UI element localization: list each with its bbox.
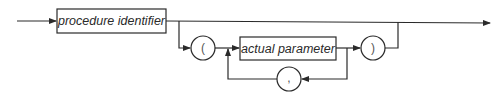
rejoin-main-track [385, 22, 398, 48]
close-paren-node: ) [361, 36, 385, 60]
actual-parameter-label: actual parameter [241, 42, 336, 56]
procedure-identifier-node: procedure identifier [57, 9, 166, 33]
branch-to-open-paren [179, 21, 190, 48]
railroad-diagram: procedure identifier ( actual parameter … [0, 0, 500, 97]
open-paren-node: ( [191, 36, 215, 60]
close-paren-label: ) [371, 41, 375, 55]
actual-parameter-node: actual parameter [240, 37, 336, 60]
comma-label: , [287, 71, 290, 85]
main-track [166, 21, 490, 23]
comma-node: , [277, 67, 301, 91]
open-paren-label: ( [201, 41, 205, 55]
procedure-identifier-label: procedure identifier [57, 14, 166, 28]
